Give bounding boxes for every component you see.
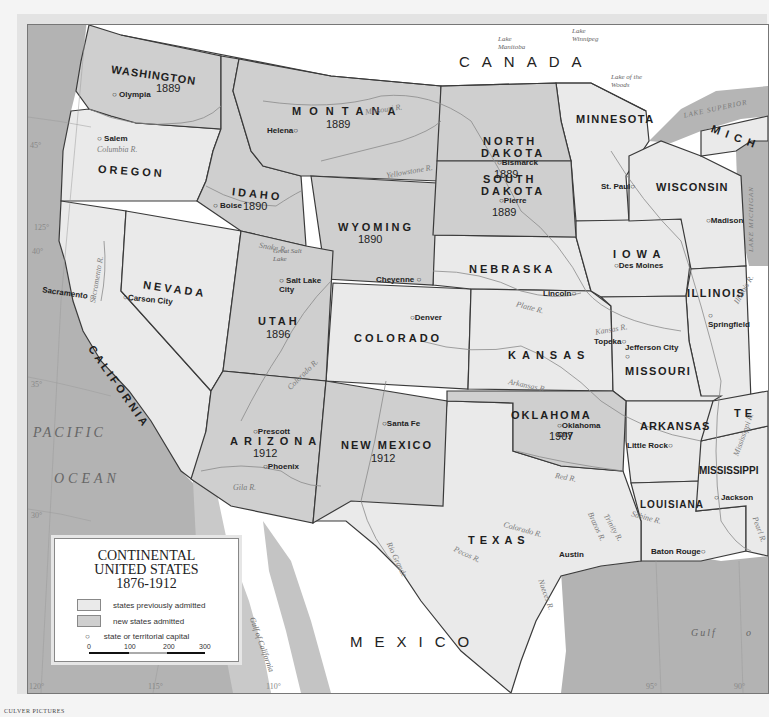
state-label-texas: TEXAS (468, 534, 530, 546)
legend-title-line3: 1876-1912 (55, 577, 238, 591)
lon-label-90: 90° (734, 682, 745, 691)
capital-cheyenne: Cheyenne ○ (376, 275, 421, 284)
state-year-utah: 1896 (266, 328, 290, 340)
capital-little-rock: Little Rock○ (627, 441, 673, 450)
river-label-columbia: Columbia R. (97, 145, 137, 154)
capital-salem: ○ Salem (97, 134, 128, 143)
state-label-iowa: IOWA (613, 248, 666, 260)
state-label-oklahoma: OKLAHOMA (511, 409, 592, 421)
country-label-mexico: MEXICO (350, 633, 481, 650)
capital-pierre: ○Pierre (499, 196, 527, 205)
water-label-gulf: Gulf (691, 627, 717, 638)
state-year-arizona: 1912 (253, 447, 277, 459)
lat-label-45: 45° (30, 141, 41, 150)
capital-des-moines: ○Des Moines (614, 261, 663, 270)
swatch-dark-icon (77, 615, 101, 627)
water-label-lake-manitoba: Lake Manitoba (498, 35, 528, 51)
capital-topeka: Topeka○ (594, 337, 626, 346)
state-year-montana: 1889 (326, 118, 350, 130)
capital-st-paul: St. Paul○ (601, 182, 635, 191)
state-label-south-dakota-1: SOUTH (483, 173, 537, 185)
legend-item-previous: states previously admitted (77, 599, 206, 611)
lat-label-35: 35° (31, 380, 42, 389)
water-label-lake-michigan: LAKE MICHIGAN (747, 186, 755, 252)
state-label-arkansas: ARKANSAS (640, 420, 710, 432)
capital-salt-lake-city: ○ Salt Lake City (279, 276, 324, 294)
state-label-minnesota: MINNESOTA (576, 113, 655, 125)
capital-phoenix: ○Phoenix (263, 462, 299, 471)
state-label-kansas: KANSAS (508, 349, 590, 361)
state-year-idaho: 1890 (243, 200, 267, 212)
lon-label-125: 125° (34, 223, 49, 232)
state-label-wisconsin: WISCONSIN (656, 181, 729, 193)
swatch-light-icon (77, 599, 101, 611)
state-kansas (468, 289, 613, 391)
capital-bismarck: ○Bismarck (497, 158, 538, 167)
state-label-north-dakota-1: NORTH (483, 135, 537, 147)
lon-label-115: 115° (148, 682, 163, 691)
capital-helena: Helena○ (267, 126, 298, 135)
capital-austin: Austin (559, 550, 584, 559)
state-label-wyoming: WYOMING (338, 221, 414, 233)
legend-title-line1: CONTINENTAL (55, 549, 238, 563)
state-label-nebraska: NEBRASKA (469, 263, 555, 275)
capital-circle-icon: ○ (85, 632, 90, 641)
capital-lincoln: Lincoln○ (543, 289, 576, 298)
river-label-gila: Gila R. (233, 483, 256, 492)
capital-oklahoma-city: ○Oklahoma City (557, 421, 602, 439)
state-label-colorado: COLORADO (354, 332, 442, 344)
capital-santa-fe: ○Santa Fe (382, 419, 420, 428)
photo-credit: CULVER PICTURES (4, 708, 65, 714)
capital-springfield: ○Springfield (708, 311, 750, 329)
capital-olympia: ○ Olympia (112, 90, 151, 99)
water-label-ocean: OCEAN (54, 471, 120, 487)
state-label-louisiana: LOUISIANA (640, 499, 704, 510)
lon-label-120: 120° (29, 682, 44, 691)
state-label-arizona: ARIZONA (230, 435, 322, 447)
state-year-new-mexico: 1912 (371, 452, 395, 464)
capital-jackson: ○ Jackson (714, 493, 753, 502)
water-label-lake-winnipeg: Lake Winnipeg (572, 27, 608, 43)
state-year-washington: 1889 (156, 82, 180, 94)
capital-prescott: ○Prescott (253, 427, 290, 436)
lat-label-30: 30° (31, 511, 42, 520)
capital-jefferson-city: Jefferson City ○ (625, 343, 680, 361)
water-label-pacific: PACIFIC (33, 425, 106, 441)
state-label-mississippi: MISSISSIPPI (699, 465, 758, 476)
legend-item-capital: ○ state or territorial capital (85, 632, 189, 641)
water-label-lake-woods: Lake of the Woods (611, 73, 649, 89)
capital-boise: ○ Boise (213, 201, 242, 210)
lon-label-95: 95° (646, 682, 657, 691)
gulf-of-mexico (561, 556, 768, 693)
water-label-gulf-o: o (746, 627, 751, 638)
legend-item-new: new states admitted (77, 615, 184, 627)
legend-title-line2: UNITED STATES (55, 563, 238, 577)
map-legend: CONTINENTAL UNITED STATES 1876-1912 stat… (54, 538, 239, 662)
country-label-canada: CANADA (459, 53, 594, 70)
state-label-utah: UTAH (258, 315, 300, 327)
state-label-missouri: MISSOURI (625, 365, 691, 377)
lon-label-110: 110° (266, 682, 281, 691)
capital-denver: ○Denver (410, 313, 442, 322)
state-year-south-dakota: 1889 (492, 206, 516, 218)
state-label-new-mexico: NEW MEXICO (341, 439, 433, 451)
lat-label-40: 40° (32, 247, 43, 256)
state-year-wyoming: 1890 (358, 233, 382, 245)
capital-madison: ○Madison (706, 216, 743, 225)
capital-baton-rouge: Baton Rouge○ (651, 547, 706, 556)
